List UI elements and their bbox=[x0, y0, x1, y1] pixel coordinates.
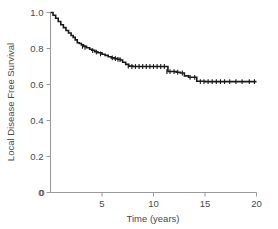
x-tick-label-zero: 0 bbox=[39, 187, 44, 198]
x-tick-label: 15 bbox=[200, 198, 211, 209]
survival-curve bbox=[51, 13, 257, 82]
kaplan-meier-plot: 00.20.40.60.81.0 05101520 Time (years) L… bbox=[0, 0, 278, 229]
x-tick-label: 20 bbox=[251, 198, 262, 209]
y-tick-label: 0.2 bbox=[30, 151, 43, 162]
y-tick-label: 0.4 bbox=[30, 115, 43, 126]
y-axis-ticks bbox=[47, 13, 51, 193]
y-axis-title: Local Disease Free Survival bbox=[5, 43, 16, 161]
y-tick-label: 0.6 bbox=[30, 79, 43, 90]
x-axis-title: Time (years) bbox=[127, 213, 180, 224]
x-axis-ticks bbox=[102, 193, 257, 197]
x-tick-label: 10 bbox=[148, 198, 159, 209]
x-tick-label: 5 bbox=[99, 198, 104, 209]
x-axis-tick-labels: 05101520 bbox=[39, 187, 262, 209]
censor-marks bbox=[82, 44, 254, 84]
y-tick-label: 0.8 bbox=[30, 43, 43, 54]
y-axis-tick-labels: 00.20.40.60.81.0 bbox=[30, 7, 43, 198]
y-tick-label: 1.0 bbox=[30, 7, 43, 18]
chart-figure: 00.20.40.60.81.0 05101520 Time (years) L… bbox=[0, 0, 278, 229]
